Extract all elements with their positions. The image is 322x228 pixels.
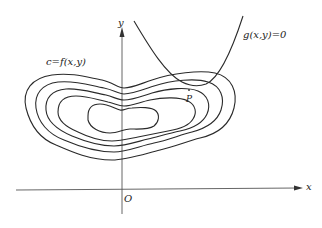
y-axis-label: y	[118, 18, 124, 28]
level-curve-2	[58, 96, 195, 141]
x-axis	[16, 188, 298, 190]
origin-label: O	[124, 194, 132, 204]
constraint-curve	[134, 16, 243, 86]
constraint-label: g(x,y)=0	[243, 30, 286, 40]
level-curve-1	[88, 104, 158, 133]
level-curve-label: c=f(x,y)	[46, 57, 86, 67]
tangency-point-p	[188, 89, 190, 91]
level-curve-3	[46, 89, 209, 146]
point-p-label: P	[186, 95, 192, 104]
x-axis-label: x	[306, 182, 312, 192]
x-axis-arrow-icon	[294, 186, 303, 191]
y-axis-arrow-icon	[120, 27, 125, 37]
